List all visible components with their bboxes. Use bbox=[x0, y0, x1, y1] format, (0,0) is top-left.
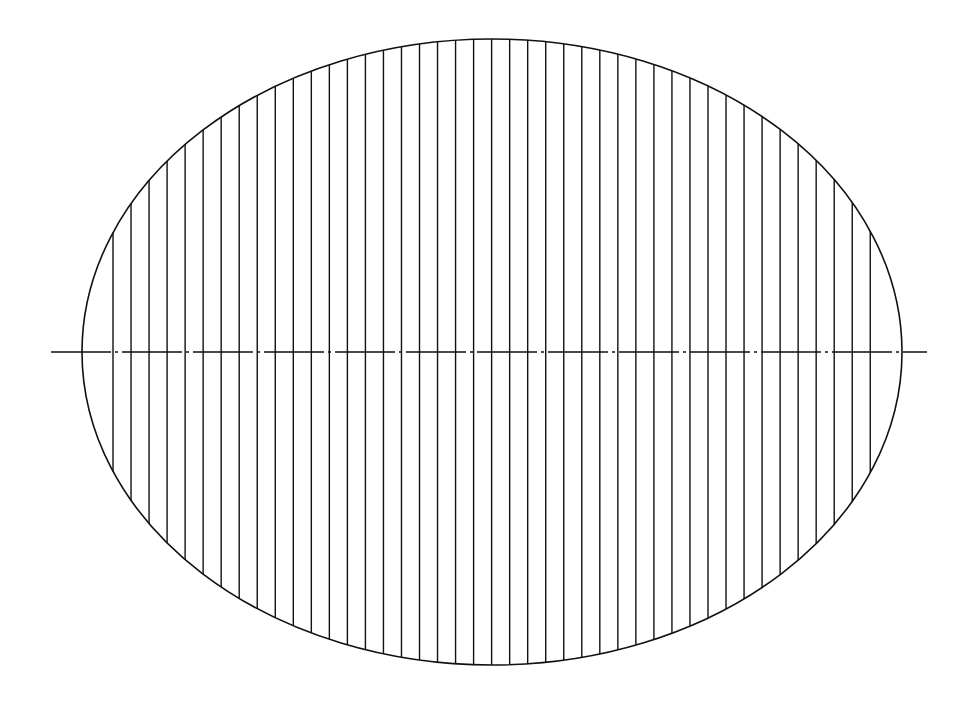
hatched-ellipse-drawing bbox=[0, 0, 978, 702]
